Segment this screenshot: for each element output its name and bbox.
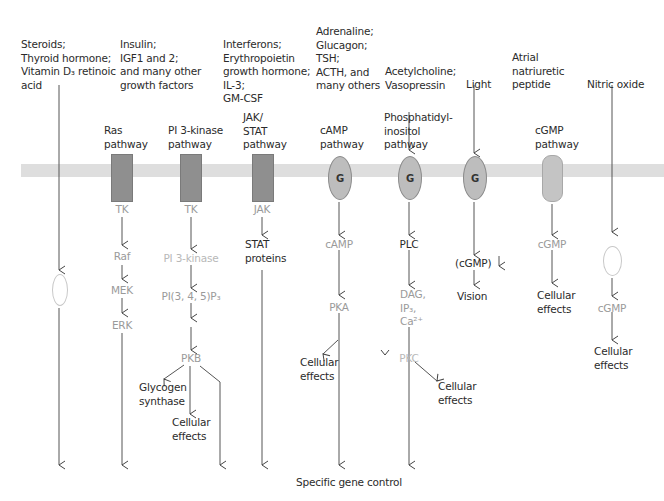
signal-insulin-label: Insulin; IGF1 and 2; and many other grow… [120,38,201,92]
cgmp-cellular-effects-label: Cellular effects [537,289,575,316]
no-cellular-effects-label: Cellular effects [594,345,632,372]
pathway-camp-label: cAMP pathway [320,124,364,151]
erk-label: ERK [112,319,132,333]
pathway-pi3k-label: PI 3-kinase pathway [168,124,223,151]
tk-label-pi3k: TK [185,203,198,217]
pathway-cgmp-label: cGMP pathway [535,124,579,151]
signal-acetylcholine-label: Acetylcholine; Vasopressin [385,65,456,92]
pathway-jak-stat-label: JAK/ STAT pathway [243,111,287,152]
pkc-label: PKC [399,352,418,366]
pka-cellular-effects-label: Cellular effects [300,356,338,383]
signalling-diagram: G G G [0,0,664,501]
signal-steroids-label: Steroids; Thyroid hormone; Vitamin D₃ re… [21,38,116,92]
signal-adrenaline-label: Adrenaline; Glucagon; TSH; ACTH, and man… [316,25,380,93]
vision-label: Vision [457,290,487,304]
pathway-pi-label: Phosphatidyl- inositol pathway [384,111,453,152]
glycogen-synthase-label: Glycogen synthase [139,381,187,408]
signal-light-label: Light [466,78,491,92]
signal-nitric-oxide-label: Nitric oxide [587,78,644,92]
pip3-label: PI(3, 4, 5)P₃ [162,290,221,304]
signal-interferons-label: Interferons; Erythropoietin growth hormo… [223,38,310,106]
dag-ip3-ca-label: DAG, IP₃, Ca²⁺ [400,288,426,329]
no-cgmp-label: cGMP [598,302,627,316]
signal-anp-label: Atrial natriuretic peptide [512,51,564,92]
raf-label: Raf [114,250,131,264]
mek-label: MEK [111,284,133,298]
jak-label: JAK [254,203,270,217]
camp-label: cAMP [325,238,353,252]
specific-gene-control-label: Specific gene control [296,476,402,490]
pkb-cellular-effects-label: Cellular effects [172,416,210,443]
stat-proteins-label: STAT proteins [245,238,286,265]
tk-label-ras: TK [116,203,129,217]
pi3-kinase-label: PI 3-kinase [163,252,218,266]
pka-label: PKA [329,301,349,315]
pkc-cellular-effects-label: Cellular effects [438,380,476,407]
pathway-ras-label: Ras pathway [104,124,148,151]
plc-label: PLC [400,238,419,252]
pkb-label: PKB [181,352,201,366]
cgmp-light-label: (cGMP) [455,257,491,271]
cgmp-label: cGMP [538,238,567,252]
